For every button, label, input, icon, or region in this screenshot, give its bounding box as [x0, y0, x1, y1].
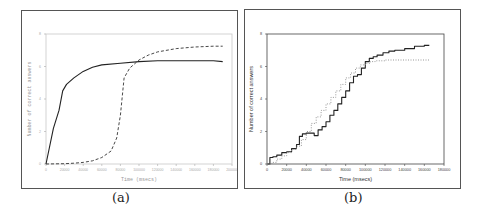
y-axis-label: Number of correct answers — [248, 66, 254, 132]
x-tick-label: 0 — [266, 168, 268, 172]
chart-b-plot: 0246802000040000600008000010000012000014… — [245, 10, 460, 188]
x-tick-label: 80000 — [116, 168, 126, 172]
y-axis-label: Number of correct answers — [27, 61, 33, 136]
y-tick-label: 6 — [260, 65, 262, 69]
x-tick-label: 0 — [45, 168, 47, 172]
y-tick-label: 0 — [260, 162, 262, 166]
x-tick-label: 100000 — [359, 168, 372, 172]
x-tick-label: 140000 — [170, 168, 182, 172]
plot-area — [267, 34, 444, 164]
x-tick-label: 20000 — [60, 168, 70, 172]
y-tick-label: 4 — [39, 97, 41, 101]
y-tick-label: 2 — [260, 130, 262, 134]
y-tick-label: 8 — [260, 32, 262, 36]
x-tick-label: 60000 — [321, 168, 332, 172]
x-tick-label: 40000 — [301, 168, 312, 172]
x-tick-label: 20000 — [281, 168, 292, 172]
x-tick-label: 100000 — [133, 168, 145, 172]
x-tick-label: 160000 — [418, 168, 431, 172]
y-tick-label: 8 — [39, 32, 41, 36]
y-tick-label: 6 — [39, 65, 41, 69]
x-tick-label: 180000 — [438, 168, 451, 172]
chart-a-frame: 0246802000040000600008000010000012000014… — [21, 10, 238, 189]
x-tick-label: 200000 — [226, 168, 237, 172]
x-tick-label: 40000 — [78, 168, 88, 172]
series-solid-step — [267, 45, 429, 164]
chart-b-frame: 0246802000040000600008000010000012000014… — [244, 9, 461, 189]
y-tick-label: 2 — [39, 130, 41, 134]
x-tick-label: 80000 — [340, 168, 351, 172]
caption-a: (a) — [112, 190, 130, 205]
x-tick-label: 60000 — [97, 168, 107, 172]
caption-b: (b) — [344, 190, 362, 205]
x-tick-label: 120000 — [152, 168, 164, 172]
x-tick-label: 180000 — [208, 168, 220, 172]
series-solid — [46, 61, 223, 164]
x-tick-label: 140000 — [398, 168, 411, 172]
chart-a-plot: 0246802000040000600008000010000012000014… — [22, 11, 237, 188]
x-tick-label: 160000 — [189, 168, 201, 172]
x-axis-label: Time (msecs) — [339, 176, 372, 182]
x-tick-label: 120000 — [379, 168, 392, 172]
x-axis-label: Time (msecs) — [121, 177, 157, 183]
y-tick-label: 4 — [260, 97, 262, 101]
series-dashed — [46, 46, 223, 164]
plot-area — [46, 34, 232, 164]
y-tick-label: 0 — [39, 162, 41, 166]
